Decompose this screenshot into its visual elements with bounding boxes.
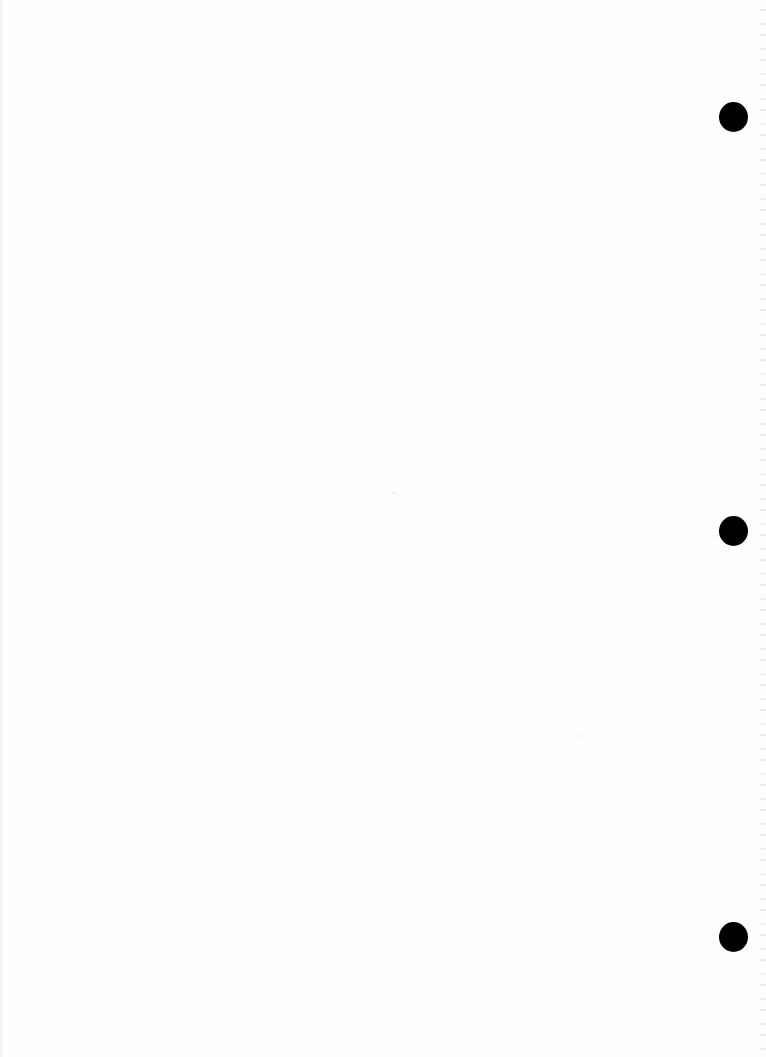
- punch-hole-middle: [719, 516, 748, 546]
- scanned-page: [0, 0, 766, 1057]
- scan-speck: [580, 735, 582, 737]
- punch-hole-top: [719, 102, 748, 132]
- scan-speck: [393, 492, 395, 494]
- page-right-edge-scan-noise: [760, 0, 766, 1057]
- punch-hole-bottom: [719, 922, 748, 952]
- page-left-edge-shadow: [0, 0, 4, 1057]
